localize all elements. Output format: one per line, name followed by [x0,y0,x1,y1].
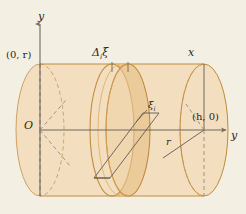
figure-canvas: y x y O (0, r) (h, 0) Δiξ ξi r [0,0,246,214]
cylinder-tank-diagram-svg [0,0,246,214]
